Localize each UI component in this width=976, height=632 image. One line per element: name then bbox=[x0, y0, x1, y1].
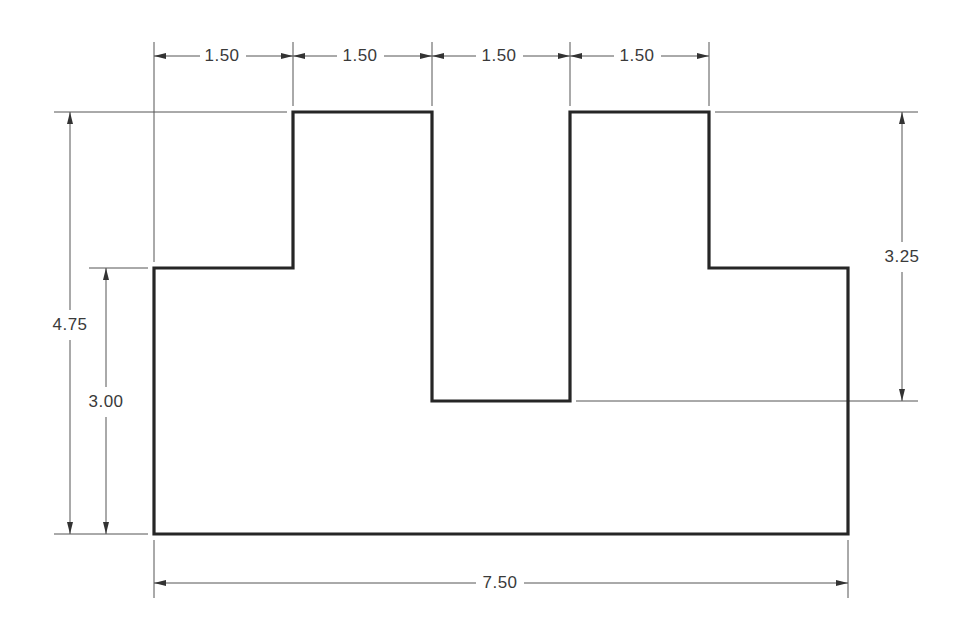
part-drawing bbox=[0, 0, 976, 632]
dimension-4-75 bbox=[67, 112, 73, 534]
part-outline bbox=[154, 112, 848, 534]
dimension-3-00 bbox=[103, 268, 109, 534]
dimension-7-50 bbox=[154, 580, 848, 586]
dimension-3-25 bbox=[899, 112, 905, 401]
extension-lines bbox=[54, 42, 918, 598]
